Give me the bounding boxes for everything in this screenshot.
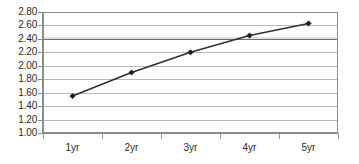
y-axis-label-text: 1.80 (1, 74, 37, 84)
y-axis-label: 2.80 (0, 7, 37, 17)
x-axis-tick (161, 134, 162, 139)
y-axis-tick (38, 25, 43, 26)
gridline (44, 79, 337, 80)
y-axis-tick (38, 106, 43, 107)
y-axis-label: 1.80 (0, 74, 37, 84)
y-axis-tick (38, 79, 43, 80)
gridline (44, 120, 337, 121)
y-axis-label-text: 1.20 (1, 115, 37, 125)
gridline (44, 93, 337, 94)
y-axis-label: 1.60 (0, 88, 37, 98)
y-axis-label: 2.00 (0, 61, 37, 71)
y-axis-label-text: 1.00 (1, 128, 37, 138)
x-axis-tick (102, 134, 103, 139)
y-axis-label-text: 2.00 (1, 61, 37, 71)
y-axis-label-text: 2.60 (1, 20, 37, 30)
y-axis-label-text: 2.20 (1, 47, 37, 57)
x-axis-tick (220, 134, 221, 139)
gridline (44, 39, 337, 40)
gridline (44, 66, 337, 67)
y-axis-tick (38, 52, 43, 53)
x-axis-tick (338, 134, 339, 139)
y-axis-label: 1.40 (0, 101, 37, 111)
x-axis-label: 3yr (171, 142, 211, 153)
y-axis-line (42, 12, 43, 134)
y-axis-label-text: 2.80 (1, 7, 37, 17)
x-axis-label: 1yr (53, 142, 93, 153)
x-axis-label: 4yr (230, 142, 270, 153)
plot-area (43, 12, 338, 133)
y-axis-tick (38, 12, 43, 13)
y-axis-tick (38, 120, 43, 121)
y-axis-label: 1.00 (0, 128, 37, 138)
y-axis-label-text: 1.60 (1, 88, 37, 98)
y-axis-tick (38, 66, 43, 67)
x-axis-tick (43, 134, 44, 139)
x-axis-tick (279, 134, 280, 139)
gridline (44, 25, 337, 26)
y-axis-tick (38, 93, 43, 94)
y-axis-label: 2.20 (0, 47, 37, 57)
y-axis-label-text: 1.40 (1, 101, 37, 111)
y-axis-tick (38, 39, 43, 40)
y-axis-label: 1.20 (0, 115, 37, 125)
gridline (44, 52, 337, 53)
gridline (44, 106, 337, 107)
y-axis-label-text: 2.40 (1, 34, 37, 44)
line-chart: 1.001.201.401.601.802.002.202.402.602.80… (0, 0, 359, 164)
y-axis-label: 2.40 (0, 34, 37, 44)
x-axis-line (42, 133, 339, 134)
x-axis-label: 2yr (112, 142, 152, 153)
y-axis-label: 2.60 (0, 20, 37, 30)
x-axis-label: 5yr (289, 142, 329, 153)
